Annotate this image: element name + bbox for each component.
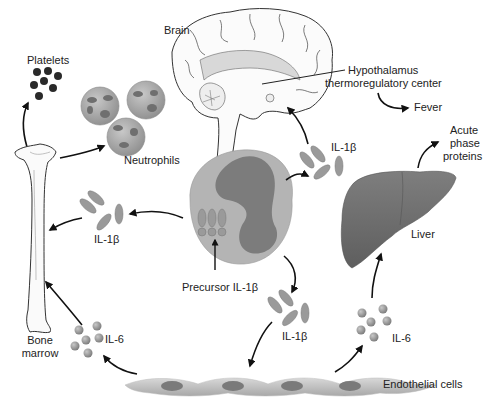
liver-illustration — [341, 171, 456, 268]
monocyte-illustration — [190, 150, 293, 270]
acute-phase-proteins-label: Acute phase proteins — [441, 124, 491, 163]
il6-left-label: IL-6 — [105, 333, 124, 346]
brain-label: Brain — [164, 24, 190, 37]
acute-label-line3: proteins — [441, 150, 491, 163]
brain-illustration — [172, 9, 345, 170]
arrow-monocyte-to-il1b-bottom — [284, 256, 295, 292]
il1b-top-label: IL-1β — [331, 141, 356, 154]
acute-label-line1: Acute — [441, 124, 491, 137]
acute-label-line2: phase — [441, 137, 491, 150]
platelets-label: Platelets — [27, 54, 69, 67]
arrow-endothelial-to-il6-left — [104, 356, 137, 374]
il6-right-cluster — [357, 305, 392, 342]
bone-label-line1: Bone — [20, 334, 60, 347]
bone-marrow-label: Bone marrow — [20, 334, 60, 360]
il1b-left-cluster — [78, 189, 123, 233]
fever-label: Fever — [414, 101, 442, 114]
arrow-il6-to-liver — [372, 254, 381, 298]
endothelial-cells-label: Endothelial cells — [383, 378, 463, 391]
arrow-il6-to-bone — [46, 282, 82, 325]
arrow-il1b-to-endothelial — [250, 322, 272, 366]
thermoregulatory-center-label: thermoregulatory center — [325, 77, 442, 90]
il1b-left-label: IL-1β — [94, 233, 119, 246]
arrow-to-fever — [378, 93, 408, 108]
il1b-bottom-label: IL-1β — [282, 330, 307, 343]
arrow-to-neutrophils — [60, 146, 104, 158]
platelets-illustration — [30, 67, 62, 100]
diagram: Brain Hypothalamus thermoregulatory cent… — [0, 0, 491, 403]
arrow-il1b-to-bone — [50, 218, 82, 230]
arrow-endothelial-to-il6-right — [335, 346, 362, 372]
arrow-to-platelets — [23, 103, 28, 147]
arrow-liver-to-acute-phase — [418, 142, 438, 168]
neutrophils-illustration — [81, 81, 165, 156]
hypothalamus-label: Hypothalamus — [348, 64, 418, 77]
precursor-il1b-label: Precursor IL-1β — [182, 281, 258, 294]
il6-right-label: IL-6 — [392, 332, 411, 345]
il1b-bottom-cluster — [266, 288, 309, 328]
arrow-monocyte-to-il1b-left — [130, 211, 183, 218]
bone-label-line2: marrow — [20, 347, 60, 360]
liver-label: Liver — [411, 228, 435, 241]
bone-marrow-illustration — [15, 144, 56, 333]
il6-left-cluster — [71, 322, 104, 358]
neutrophils-label: Neutrophils — [124, 154, 180, 167]
